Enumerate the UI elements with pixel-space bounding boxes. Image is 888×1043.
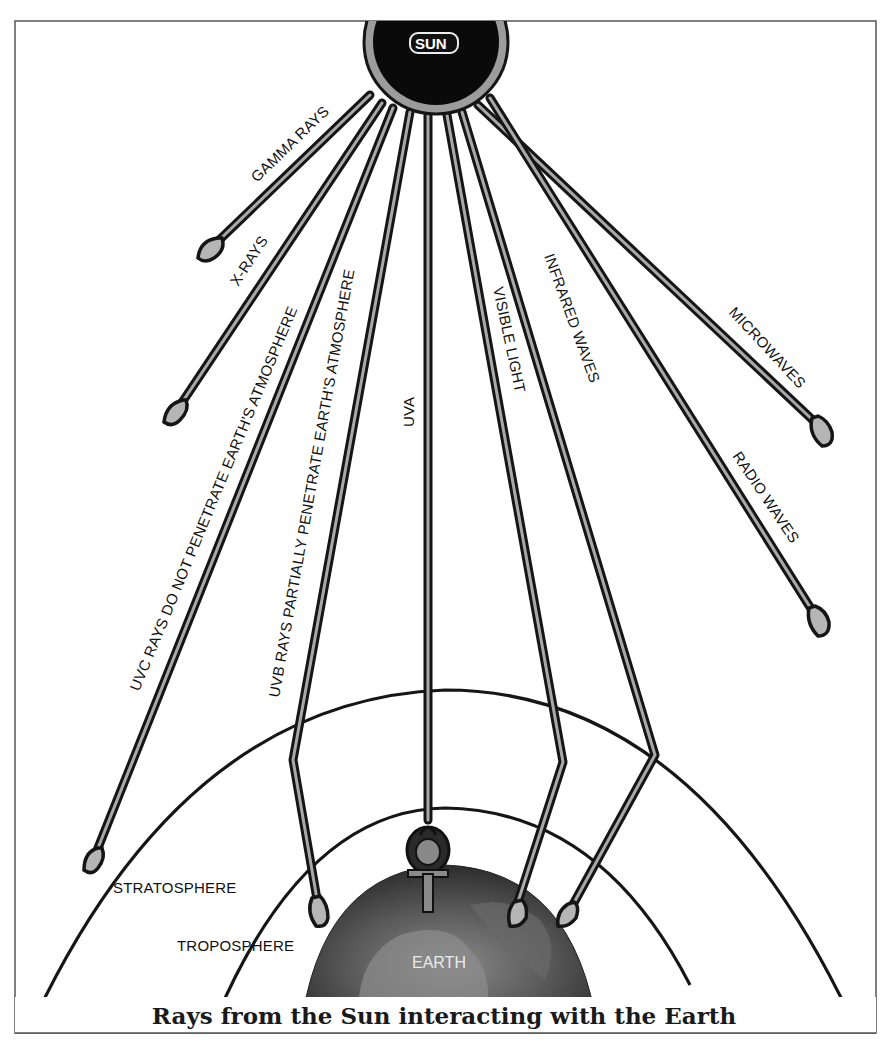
earth-label: EARTH bbox=[412, 954, 466, 971]
ray-tip-visible bbox=[509, 900, 527, 926]
diagram-caption: Rays from the Sun interacting with the E… bbox=[152, 1002, 737, 1029]
sun-label: SUN bbox=[415, 35, 447, 52]
label-stratosphere: STRATOSPHERE bbox=[113, 879, 237, 896]
label-troposphere: TROPOSPHERE bbox=[177, 937, 294, 954]
ray-tip-uvb bbox=[310, 896, 328, 926]
sun-rays-diagram: EARTH bbox=[0, 0, 888, 1043]
label-uva: UVA bbox=[400, 397, 417, 427]
